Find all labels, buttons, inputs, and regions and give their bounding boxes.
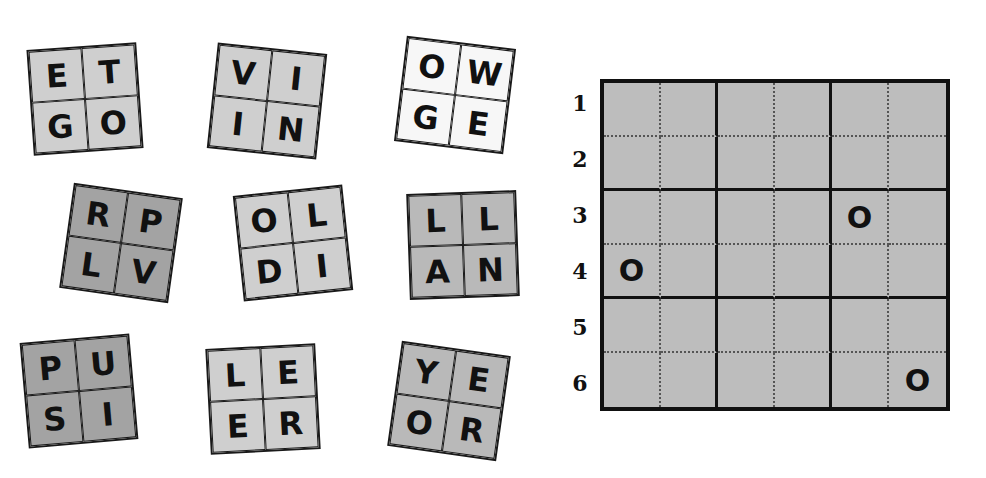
board-cell-r5-c5[interactable] — [832, 299, 889, 353]
board-cell-r6-c5[interactable] — [832, 353, 889, 407]
puzzle-board: OOO — [600, 79, 950, 411]
board-cell-r6-c2[interactable] — [661, 353, 718, 407]
board-cell-r3-c5[interactable]: O — [832, 191, 889, 245]
row-label-1: 1 — [565, 90, 595, 116]
tile-cell: E — [210, 399, 266, 453]
board-cell-r6-c1[interactable] — [604, 353, 661, 407]
row-label-5: 5 — [565, 314, 595, 340]
tile-9[interactable]: Y E O R — [387, 341, 511, 461]
board-cell-r1-c5[interactable] — [832, 83, 889, 137]
board-cell-r3-c6[interactable] — [889, 191, 946, 245]
tile-cell: P — [22, 340, 79, 395]
tile-cell: S — [26, 391, 83, 446]
tile-cell: E — [449, 95, 508, 152]
tile-cell: P — [121, 192, 181, 250]
tile-cell: O — [389, 394, 449, 452]
board-cell-r4-c1[interactable]: O — [604, 245, 661, 299]
tile-cell: E — [260, 345, 316, 399]
tile-cell: O — [235, 192, 293, 248]
board-cell-r4-c2[interactable] — [661, 245, 718, 299]
board-cell-r4-c6[interactable] — [889, 245, 946, 299]
row-label-6: 6 — [565, 370, 595, 396]
tile-cell: R — [442, 401, 502, 459]
board-cell-r5-c1[interactable] — [604, 299, 661, 353]
tile-cell: G — [396, 89, 455, 146]
tile-cell: E — [29, 48, 85, 103]
tile-cell: R — [69, 185, 129, 243]
tile-6[interactable]: L L A N — [406, 190, 520, 300]
tile-2[interactable]: V I I N — [207, 43, 327, 160]
tile-cell: L — [61, 236, 121, 294]
tile-cell: T — [81, 44, 137, 99]
tile-cell: V — [114, 243, 174, 301]
board-cell-r1-c6[interactable] — [889, 83, 946, 137]
board-cell-r2-c4[interactable] — [775, 137, 832, 191]
tile-cell: R — [263, 396, 319, 450]
tile-3[interactable]: O W G E — [394, 36, 516, 155]
board-cell-r5-c6[interactable] — [889, 299, 946, 353]
board-cell-r5-c2[interactable] — [661, 299, 718, 353]
board-cell-r5-c4[interactable] — [775, 299, 832, 353]
board-cell-r2-c5[interactable] — [832, 137, 889, 191]
board-cell-r2-c2[interactable] — [661, 137, 718, 191]
tile-cell: O — [402, 38, 461, 95]
board-cell-r4-c4[interactable] — [775, 245, 832, 299]
tile-cell: L — [408, 194, 463, 247]
tile-cell: L — [207, 348, 263, 402]
board-cell-r6-c4[interactable] — [775, 353, 832, 407]
row-label-2: 2 — [565, 146, 595, 172]
row-label-3: 3 — [565, 202, 595, 228]
tile-cell: N — [463, 243, 518, 296]
board-cell-r6-c6[interactable]: O — [889, 353, 946, 407]
tile-cell: V — [214, 45, 272, 101]
tile-1[interactable]: E T G O — [26, 42, 143, 155]
tile-cell: Y — [397, 343, 457, 401]
tile-cell: O — [85, 95, 141, 150]
tile-cell: I — [267, 50, 325, 106]
tile-cell: I — [209, 95, 267, 151]
board-cell-r6-c3[interactable] — [718, 353, 775, 407]
row-label-4: 4 — [565, 258, 595, 284]
board-cell-r2-c6[interactable] — [889, 137, 946, 191]
tile-8[interactable]: L E E R — [205, 343, 320, 455]
tile-cell: N — [262, 101, 320, 157]
board-cell-r4-c3[interactable] — [718, 245, 775, 299]
board-cell-r2-c3[interactable] — [718, 137, 775, 191]
tile-5[interactable]: O L D I — [233, 185, 353, 302]
board-cell-r1-c2[interactable] — [661, 83, 718, 137]
tile-cell: I — [79, 386, 136, 441]
board-cell-r1-c3[interactable] — [718, 83, 775, 137]
tile-cell: A — [410, 245, 465, 298]
board-cell-r3-c1[interactable] — [604, 191, 661, 245]
board-cell-r5-c3[interactable] — [718, 299, 775, 353]
board-cell-r4-c5[interactable] — [832, 245, 889, 299]
board-cell-r3-c3[interactable] — [718, 191, 775, 245]
tile-cell: L — [461, 192, 516, 245]
board-cell-r1-c4[interactable] — [775, 83, 832, 137]
board-cell-r3-c4[interactable] — [775, 191, 832, 245]
tile-cell: L — [288, 187, 346, 243]
tile-cell: D — [240, 243, 298, 299]
tile-cell: E — [449, 350, 509, 408]
tile-7[interactable]: P U S I — [20, 333, 139, 448]
board-cell-r3-c2[interactable] — [661, 191, 718, 245]
tile-cell: W — [455, 44, 514, 101]
tile-cell: U — [75, 336, 132, 391]
tile-cell: I — [293, 237, 351, 293]
tile-4[interactable]: R P L V — [59, 183, 183, 303]
board-cell-r2-c1[interactable] — [604, 137, 661, 191]
tile-cell: G — [32, 99, 88, 154]
board-cell-r1-c1[interactable] — [604, 83, 661, 137]
